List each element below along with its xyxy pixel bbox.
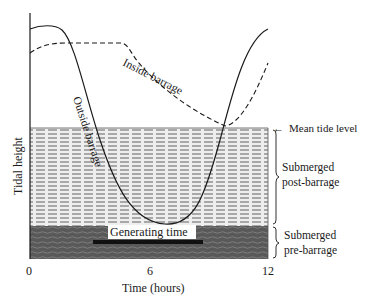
tidal-barrage-diagram: Inside barrage Outside barrage Tidal hei…: [0, 0, 374, 303]
x-tick-0: 0: [26, 264, 32, 278]
post-barrage-brace: [273, 130, 279, 224]
x-tick-12: 12: [262, 264, 274, 278]
pre-barrage-brace: [273, 227, 279, 258]
pre-barrage-label-line1: Submerged: [284, 229, 336, 242]
generating-time-label: Generating time: [110, 225, 188, 239]
post-barrage-label-line2: post-barrage: [282, 176, 339, 189]
inside-barrage-curve: [30, 43, 268, 126]
x-tick-6: 6: [147, 264, 153, 278]
mean-tide-level-label: Mean tide level: [289, 122, 357, 134]
post-barrage-label-line1: Submerged: [282, 161, 334, 174]
submerged-post-barrage-region: [30, 128, 268, 226]
y-axis-label: Tidal height: [11, 136, 25, 195]
pre-barrage-label-line2: pre-barrage: [284, 244, 337, 257]
mean-tide-arrow-icon: ←: [273, 122, 284, 134]
generating-time-bar: [93, 240, 203, 244]
inside-barrage-label: Inside barrage: [121, 56, 185, 97]
x-axis-label: Time (hours): [122, 281, 185, 295]
